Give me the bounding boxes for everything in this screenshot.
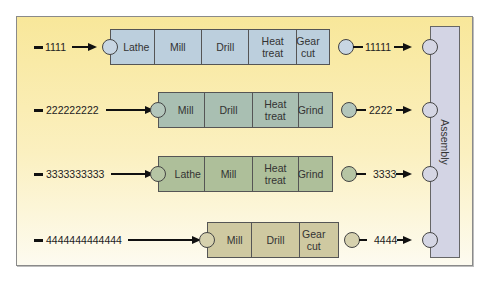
assembly-node-icon bbox=[422, 232, 438, 248]
input-dash bbox=[34, 239, 43, 242]
output-line bbox=[353, 46, 363, 48]
operation-cell: Gear cut bbox=[297, 30, 329, 64]
output-label: 2222 bbox=[369, 104, 392, 116]
input-label: 1111 bbox=[45, 41, 66, 53]
input-dash bbox=[34, 46, 43, 49]
operation-cell: Grind bbox=[299, 93, 332, 127]
process-line-2: Mill Drill Heat treat Grind bbox=[158, 92, 333, 128]
input-dash bbox=[34, 173, 43, 176]
assembly-node-icon bbox=[422, 166, 438, 182]
output-line bbox=[356, 173, 366, 175]
output-line bbox=[359, 239, 367, 241]
output-node-icon bbox=[341, 166, 357, 182]
output-node-icon bbox=[344, 232, 360, 248]
process-line-1: Lathe Mill Drill Heat treat Gear cut bbox=[110, 29, 330, 65]
input-node-icon bbox=[102, 39, 118, 55]
operation-cell: Heat treat bbox=[253, 157, 299, 191]
process-line-4: Mill Drill Gear cut bbox=[207, 222, 339, 258]
operation-cell: Mill bbox=[155, 30, 202, 64]
input-node-icon bbox=[150, 166, 166, 182]
input-node-icon bbox=[199, 232, 215, 248]
operation-cell: Heat treat bbox=[253, 93, 299, 127]
output-node-icon bbox=[338, 39, 354, 55]
input-label: 3333333333 bbox=[46, 168, 104, 180]
operation-cell: Drill bbox=[202, 30, 249, 64]
input-line bbox=[111, 173, 146, 175]
operation-cell: Mill bbox=[205, 157, 252, 191]
operation-cell: Drill bbox=[252, 223, 299, 257]
process-line-3: Lathe Mill Heat treat Grind bbox=[158, 156, 333, 192]
assembly-node-icon bbox=[422, 102, 438, 118]
input-line bbox=[72, 46, 89, 48]
output-line bbox=[356, 109, 366, 111]
arrow-icon bbox=[88, 43, 97, 51]
input-label: 222222222 bbox=[46, 104, 99, 116]
input-node-icon bbox=[150, 102, 166, 118]
assembly-label: Assembly bbox=[439, 119, 451, 165]
input-dash bbox=[34, 109, 43, 112]
operation-cell: Drill bbox=[205, 93, 252, 127]
assembly-node-icon bbox=[422, 39, 438, 55]
arrow-icon bbox=[403, 106, 412, 114]
operation-cell: Heat treat bbox=[249, 30, 297, 64]
output-node-icon bbox=[341, 102, 357, 118]
output-label: 11111 bbox=[365, 41, 391, 53]
arrow-icon bbox=[403, 236, 412, 244]
operation-cell: Grind bbox=[299, 157, 332, 191]
arrow-icon bbox=[403, 170, 412, 178]
output-label: 4444 bbox=[374, 234, 397, 246]
input-label: 4444444444444 bbox=[46, 234, 122, 246]
operation-cell: Gear cut bbox=[300, 223, 338, 257]
assembly-label-wrap: Assembly bbox=[430, 26, 460, 258]
output-label: 3333 bbox=[373, 168, 396, 180]
arrow-icon bbox=[403, 43, 412, 51]
input-line bbox=[128, 239, 193, 241]
input-line bbox=[106, 109, 146, 111]
